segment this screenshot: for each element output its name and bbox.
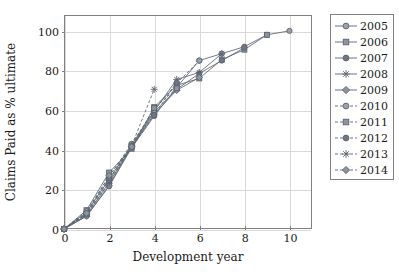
legend-label: 2009	[360, 84, 388, 97]
y-axis-tick-label: 40	[45, 144, 59, 157]
y-axis-tick-label: 80	[45, 65, 59, 78]
legend-item-2008[interactable]: 2008	[333, 66, 390, 82]
legend-label: 2005	[360, 20, 388, 33]
data-point	[174, 80, 179, 85]
legend-marker-square-icon	[333, 115, 359, 129]
legend-marker-star-icon	[333, 147, 359, 161]
legend[interactable]: 2005200620072008200920102011201220132014	[330, 14, 394, 180]
y-axis-title: Claims Paid as % ultimate	[4, 43, 18, 201]
legend-label: 2006	[360, 36, 388, 49]
series-line	[64, 35, 267, 229]
y-axis-tick-label: 100	[38, 25, 59, 38]
data-point	[242, 45, 247, 50]
legend-label: 2008	[360, 68, 388, 81]
x-axis-tick-label: 10	[283, 232, 297, 245]
data-point	[152, 106, 157, 111]
legend-item-2007[interactable]: 2007	[333, 50, 390, 66]
x-axis-tick-label: 4	[152, 232, 159, 245]
legend-label: 2011	[360, 116, 388, 129]
chart-page: Claims Paid as % ultimate 02040608010002…	[0, 0, 399, 279]
series-line	[64, 77, 199, 229]
legend-item-2006[interactable]: 2006	[333, 34, 390, 50]
x-axis-tick-label: 8	[242, 232, 249, 245]
data-point	[218, 50, 225, 57]
series-line	[64, 48, 244, 229]
y-axis-tick-label: 60	[45, 105, 59, 118]
series-2012	[61, 80, 179, 232]
legend-label: 2007	[360, 52, 388, 65]
legend-item-2005[interactable]: 2005	[333, 18, 390, 34]
series-2014	[61, 144, 135, 233]
series-layer	[64, 15, 312, 229]
legend-marker-circle-open-icon	[333, 99, 359, 113]
data-point	[174, 86, 179, 91]
data-point	[219, 58, 224, 63]
x-axis-tick-label: 0	[62, 232, 69, 245]
data-point	[264, 32, 269, 37]
data-point	[106, 180, 113, 187]
series-line	[64, 82, 177, 229]
legend-label: 2012	[360, 132, 388, 145]
series-2009	[61, 74, 203, 232]
legend-item-2012[interactable]: 2012	[333, 130, 390, 146]
legend-item-2014[interactable]: 2014	[333, 162, 390, 178]
legend-marker-circle-filled-icon	[333, 131, 359, 145]
legend-marker-square-icon	[333, 35, 359, 49]
legend-label: 2013	[360, 148, 388, 161]
legend-item-2011[interactable]: 2011	[333, 114, 390, 130]
series-2011	[62, 86, 180, 232]
y-axis-tick-label: 20	[45, 184, 59, 197]
legend-label: 2014	[360, 164, 388, 177]
legend-marker-diamond-icon	[333, 83, 359, 97]
grid-line-horizontal	[65, 230, 311, 231]
series-line	[64, 89, 154, 229]
legend-item-2010[interactable]: 2010	[333, 98, 390, 114]
data-point	[287, 28, 292, 33]
legend-item-2009[interactable]: 2009	[333, 82, 390, 98]
legend-marker-star-icon	[333, 67, 359, 81]
legend-label: 2010	[360, 100, 388, 113]
legend-item-2013[interactable]: 2013	[333, 146, 390, 162]
legend-marker-circle-filled-icon	[333, 51, 359, 65]
series-2007	[61, 45, 247, 232]
series-2013	[60, 86, 157, 233]
legend-marker-circle-open-icon	[333, 19, 359, 33]
series-line	[64, 147, 132, 229]
x-axis-title: Development year	[64, 250, 312, 264]
x-axis-tick-label: 6	[197, 232, 204, 245]
y-axis-tick-label: 0	[52, 224, 59, 237]
x-axis-tick-label: 2	[107, 232, 114, 245]
data-point	[152, 112, 157, 117]
data-point	[151, 86, 158, 93]
legend-marker-diamond-icon	[333, 163, 359, 177]
data-point	[197, 58, 202, 63]
